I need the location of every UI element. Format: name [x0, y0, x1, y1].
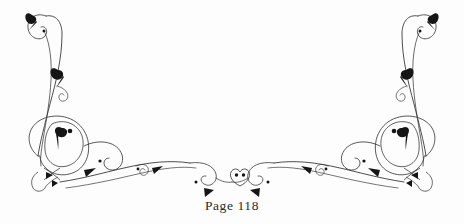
page-canvas: Page 118: [0, 0, 464, 224]
page-number-label: Page 118: [0, 198, 464, 214]
flourish-right-half: [232, 13, 439, 197]
flourish-left-half: [25, 13, 232, 197]
ornament-flourish: [0, 0, 464, 224]
center-heart-medallion: [230, 169, 249, 186]
